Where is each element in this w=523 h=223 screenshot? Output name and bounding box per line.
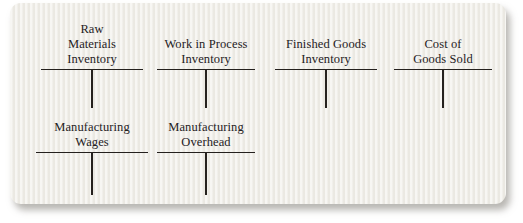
page: { "figure": { "type": "t-account-diagram… <box>0 0 523 223</box>
t-account-work-in-process-inventory: Work in Process Inventory <box>141 69 271 108</box>
t-account-cost-of-goods-sold: Cost of Goods Sold <box>378 69 508 108</box>
t-account-title-line: Goods Sold <box>363 52 523 67</box>
t-account-stem-rule <box>91 70 93 108</box>
t-account-title-line: Overhead <box>126 135 286 150</box>
figure-card: Raw Materials Inventory Work in Process … <box>10 3 506 204</box>
t-account-stem-rule <box>205 153 207 195</box>
t-account-manufacturing-wages: Manufacturing Wages <box>27 152 157 195</box>
t-account-stem-rule <box>205 70 207 108</box>
t-account-stem-rule <box>442 70 444 108</box>
t-account-title-line: Manufacturing <box>126 120 286 135</box>
t-account-finished-goods-inventory: Finished Goods Inventory <box>261 69 391 108</box>
t-account-manufacturing-overhead: Manufacturing Overhead <box>141 152 271 195</box>
t-account-stem-rule <box>325 70 327 108</box>
t-account-title: Manufacturing Overhead <box>126 120 286 150</box>
t-account-title-line: Cost of <box>363 37 523 52</box>
t-account-stem-rule <box>91 153 93 195</box>
t-account-title: Cost of Goods Sold <box>363 37 523 67</box>
t-account-raw-materials-inventory: Raw Materials Inventory <box>27 69 157 108</box>
t-account-title-line: Raw <box>12 22 172 37</box>
